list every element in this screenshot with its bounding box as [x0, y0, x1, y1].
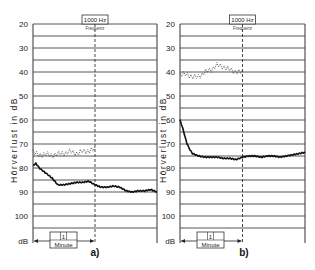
y-tick-label: 90: [19, 188, 28, 197]
frequency-label: 1000 Hz: [231, 17, 253, 23]
arrow-left-head-icon: [34, 239, 38, 243]
y-tick-label: 30: [19, 44, 28, 53]
y-tick-label: 30: [166, 44, 175, 53]
panel-label: b): [239, 247, 248, 258]
panel-a-chart: 2030405060708090100dBHörverlust in dB100…: [9, 15, 157, 258]
y-tick-label: 50: [19, 92, 28, 101]
panel-label: a): [91, 247, 100, 258]
y-tick-label: 20: [166, 20, 175, 29]
arrow-right-head-icon: [238, 239, 242, 243]
y-tick-label: 100: [162, 212, 176, 221]
y-tick-label: 80: [19, 164, 28, 173]
db-unit-label: dB: [165, 237, 175, 246]
y-tick-label: 20: [19, 20, 28, 29]
y-axis-label: Hörverlust in dB: [158, 97, 168, 183]
frequency-sublabel: Frequenz: [85, 26, 105, 31]
y-tick-label: 40: [166, 68, 175, 77]
y-tick-label: 100: [15, 212, 29, 221]
y-tick-label: 60: [19, 116, 28, 125]
y-tick-label: 40: [19, 68, 28, 77]
arrow-left-head-icon: [181, 239, 185, 243]
y-tick-label: 90: [166, 188, 175, 197]
solid-series: [33, 163, 157, 192]
panel-b-chart: 2030405060708090100dBHörverlust in dB100…: [158, 15, 305, 258]
frequency-label: 1000 Hz: [84, 17, 106, 23]
y-axis-label: Hörverlust in dB: [9, 97, 19, 183]
dotted-series: [180, 63, 243, 79]
y-tick-label: 70: [19, 140, 28, 149]
db-unit-label: dB: [18, 237, 28, 246]
dotted-series: [33, 147, 95, 159]
minute-label: Minute: [54, 242, 73, 248]
hearing-threshold-chart: 2030405060708090100dBHörverlust in dB100…: [0, 0, 315, 270]
frequency-sublabel: Frequenz: [233, 26, 253, 31]
arrow-right-head-icon: [90, 239, 94, 243]
minute-label: Minute: [201, 242, 220, 248]
